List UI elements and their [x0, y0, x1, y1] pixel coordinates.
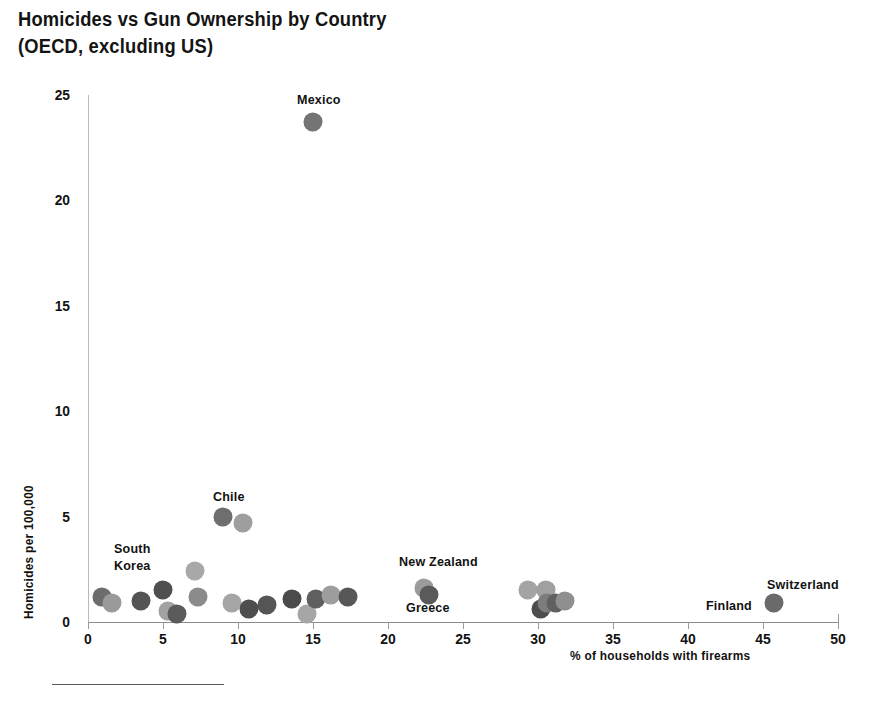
scatter-point [257, 596, 276, 615]
x-tick-label: 35 [595, 630, 631, 648]
x-tick-label: 50 [820, 630, 856, 648]
y-tick-label: 10 [18, 402, 70, 420]
chart-title-line-1: Homicides vs Gun Ownership by Country [18, 6, 507, 33]
scatter-point [167, 604, 186, 623]
scatter-point [188, 587, 207, 606]
y-tick-text: 20 [30, 191, 70, 208]
point-label-mexico: Mexico [297, 92, 341, 108]
scatter-point [304, 113, 323, 132]
scatter-point [131, 591, 150, 610]
point-label-south-korea-line-1: South [114, 541, 151, 557]
scatter-point [103, 594, 122, 613]
y-axis-title: Homicides per 100,000 [22, 485, 36, 619]
x-tick-mark [538, 622, 539, 629]
x-tick-mark [838, 622, 839, 629]
point-label-new-zealand: New Zealand [399, 554, 478, 570]
point-label-finland: Finland [706, 598, 752, 614]
scatter-point [283, 589, 302, 608]
x-tick-mark [688, 622, 689, 629]
y-axis-line [88, 95, 89, 622]
scatter-point [338, 587, 357, 606]
point-label-south-korea-line-2: Korea [114, 558, 151, 574]
x-tick-mark [613, 622, 614, 629]
scatter-point [185, 562, 204, 581]
scatter-point [239, 600, 258, 619]
x-tick-label: 5 [145, 630, 181, 648]
chart-title: Homicides vs Gun Ownership by Country (O… [18, 6, 538, 60]
y-tick-text: 25 [30, 86, 70, 103]
scatter-point [154, 581, 173, 600]
x-tick-label: 20 [370, 630, 406, 648]
y-tick-label: 15 [18, 297, 70, 315]
x-tick-mark [388, 622, 389, 629]
point-label-chile: Chile [213, 489, 245, 505]
point-label-switzerland: Switzerland [767, 577, 839, 593]
y-tick-label: 20 [18, 191, 70, 209]
x-tick-label: 25 [445, 630, 481, 648]
scatter-point [556, 591, 575, 610]
y-tick-text: 10 [30, 402, 70, 419]
x-tick-label: 15 [295, 630, 331, 648]
x-tick-label: 30 [520, 630, 556, 648]
x-axis-title: % of households with firearms [570, 649, 750, 663]
x-tick-label: 45 [745, 630, 781, 648]
x-tick-mark [88, 622, 89, 629]
point-label-greece: Greece [406, 600, 450, 616]
x-tick-mark [763, 622, 764, 629]
footer-divider [52, 684, 224, 685]
x-tick-mark [163, 622, 164, 629]
x-tick-mark [463, 622, 464, 629]
x-tick-label: 0 [70, 630, 106, 648]
x-tick-mark [238, 622, 239, 629]
scatter-point [764, 594, 783, 613]
y-tick-label: 25 [18, 86, 70, 104]
x-tick-mark [313, 622, 314, 629]
x-tick-label: 40 [670, 630, 706, 648]
x-tick-label: 10 [220, 630, 256, 648]
scatter-point [518, 581, 537, 600]
scatter-point [233, 513, 252, 532]
chart-title-line-2: (OECD, excluding US) [18, 33, 507, 60]
scatter-point [214, 507, 233, 526]
y-tick-text: 15 [30, 297, 70, 314]
